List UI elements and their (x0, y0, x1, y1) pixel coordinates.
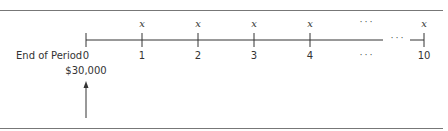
period-0: 0 (83, 50, 89, 61)
period-3: 3 (251, 50, 257, 61)
payment-label-10: x (421, 18, 427, 29)
payment-label-2: x (195, 18, 201, 29)
payment-label-4: x (307, 18, 313, 29)
present-value-label: $30,000 (65, 65, 106, 76)
payment-label-3: x (251, 18, 257, 29)
ellipsis-bottom: · · · (360, 51, 373, 60)
period-10: 10 (418, 50, 431, 61)
period-4: 4 (307, 50, 313, 61)
period-2: 2 (195, 50, 201, 61)
arrow-up-icon (84, 81, 89, 88)
row-label: End of Period (16, 50, 82, 61)
period-1: 1 (139, 50, 145, 61)
ellipsis-line: · · · (391, 34, 404, 43)
ellipsis-top: · · · (360, 18, 373, 27)
payment-label-1: x (139, 18, 145, 29)
